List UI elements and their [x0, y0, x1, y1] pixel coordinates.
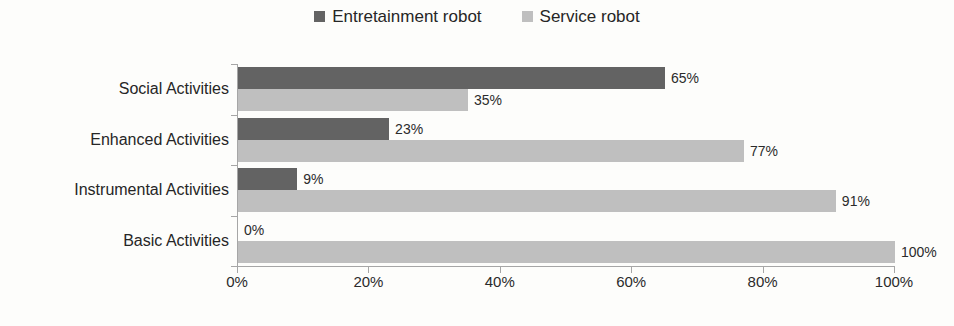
- bar-value-label: 0%: [238, 223, 264, 237]
- bar-row: 35%: [238, 89, 895, 111]
- x-axis-tick-label-0pct: 0%: [226, 274, 248, 289]
- legend-item-service-robot[interactable]: Service robot: [522, 8, 640, 25]
- y-axis-label-1: Social Activities: [4, 81, 229, 97]
- bar-chart: Entretainment robot Service robot Social…: [0, 0, 954, 326]
- bar-value-label: 77%: [744, 144, 778, 158]
- bar-row: 0%: [238, 219, 895, 241]
- x-axis-tick-label-60pct: 60%: [616, 274, 646, 289]
- bar-row: 91%: [238, 190, 895, 212]
- legend-label-service-robot: Service robot: [540, 8, 640, 25]
- bar-group: 0%100%: [238, 219, 895, 263]
- legend-label-entretainment-robot: Entretainment robot: [332, 8, 481, 25]
- bar-value-label: 91%: [836, 194, 870, 208]
- y-axis-tick: [231, 216, 237, 217]
- y-axis-category-labels: Social ActivitiesEnhanced ActivitiesInst…: [0, 64, 229, 266]
- bar[interactable]: [238, 118, 389, 140]
- x-axis-tick-labels: 0%20%40%60%80%100%: [237, 274, 895, 294]
- bar-row: 23%: [238, 118, 895, 140]
- bar[interactable]: [238, 67, 665, 89]
- y-axis-tick: [231, 115, 237, 116]
- bar-value-label: 23%: [389, 122, 423, 136]
- x-axis-tick-label-100pct: 100%: [875, 274, 913, 289]
- bar-value-label: 65%: [665, 71, 699, 85]
- bar-group: 9%91%: [238, 168, 895, 212]
- y-axis-tick: [231, 165, 237, 166]
- plot-area: 65%35%23%77%9%91%0%100%: [237, 64, 895, 266]
- bar[interactable]: [238, 168, 297, 190]
- y-axis-label-3: Instrumental Activities: [4, 182, 229, 198]
- bar-row: 100%: [238, 241, 895, 263]
- y-axis-tick: [231, 64, 237, 65]
- bar-row: 9%: [238, 168, 895, 190]
- bar[interactable]: [238, 140, 744, 162]
- bar-group: 65%35%: [238, 67, 895, 111]
- x-axis-tick-label-20pct: 20%: [353, 274, 383, 289]
- y-axis-label-2: Enhanced Activities: [4, 132, 229, 148]
- bar-value-label: 35%: [468, 93, 502, 107]
- bar-row: 77%: [238, 140, 895, 162]
- bar-row: 65%: [238, 67, 895, 89]
- bar[interactable]: [238, 241, 895, 263]
- legend-swatch-entretainment-robot: [314, 11, 325, 22]
- legend-swatch-service-robot: [522, 11, 533, 22]
- bar-group: 23%77%: [238, 118, 895, 162]
- x-axis-tick-label-40pct: 40%: [485, 274, 515, 289]
- x-axis-line: [237, 266, 895, 267]
- legend-item-entretainment-robot[interactable]: Entretainment robot: [314, 8, 481, 25]
- bar-value-label: 100%: [895, 245, 937, 259]
- bar[interactable]: [238, 190, 836, 212]
- x-axis-tick-label-80pct: 80%: [748, 274, 778, 289]
- chart-legend: Entretainment robot Service robot: [0, 8, 954, 25]
- bar-value-label: 9%: [297, 172, 323, 186]
- bar[interactable]: [238, 89, 468, 111]
- y-axis-label-4: Basic Activities: [4, 233, 229, 249]
